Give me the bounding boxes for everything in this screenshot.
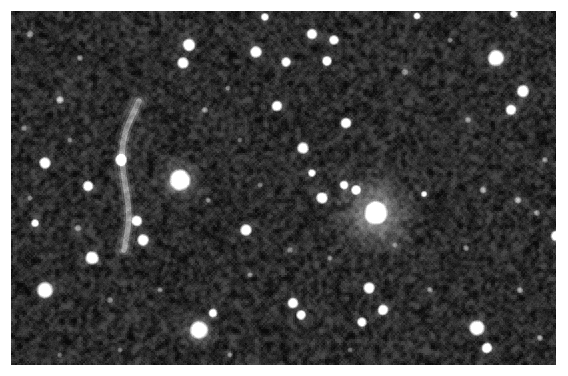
- screenshot-root: galaxy cluster star field with gravitati…: [0, 0, 568, 376]
- astronomical-image-frame: [11, 11, 556, 365]
- star-field-canvas: [11, 11, 556, 365]
